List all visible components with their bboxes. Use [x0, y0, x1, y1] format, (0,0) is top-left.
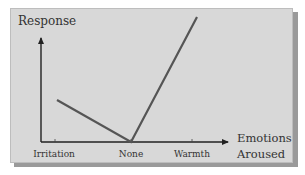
x-axis-label-line1: Emotions	[237, 130, 292, 146]
tick-label-irritation: Irritation	[33, 149, 75, 159]
response-line	[57, 17, 197, 142]
y-axis-label: Response	[18, 14, 76, 28]
x-axis-label: Emotions Aroused	[237, 130, 292, 162]
x-axis-label-line2: Aroused	[237, 146, 292, 162]
tick-label-none: None	[119, 149, 143, 159]
tick-label-warmth: Warmth	[174, 149, 210, 159]
